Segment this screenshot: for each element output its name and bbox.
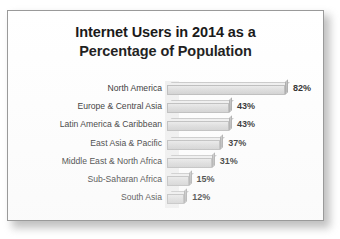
bar-front-face [167, 85, 285, 95]
bar-row: East Asia & Pacific 37% [14, 136, 319, 154]
value-label: 43% [237, 117, 255, 131]
bar-front-face [167, 140, 220, 150]
bar-row: North America 82% [14, 81, 319, 99]
bar-right-cap [285, 79, 288, 95]
bar-right-cap [184, 188, 187, 204]
bar-right-cap [229, 97, 232, 113]
bar-south-asia [167, 191, 184, 205]
bar-north-america [167, 82, 285, 96]
bar-row: Europe & Central Asia 43% [14, 99, 319, 117]
bar-front-face [167, 194, 184, 204]
value-label: 82% [293, 81, 311, 95]
bar-front-face [167, 158, 212, 168]
bar-row: South Asia 12% [14, 190, 319, 208]
bar-latin-america-caribbean [167, 118, 229, 132]
bar-right-cap [212, 152, 215, 168]
bar-row: Middle East & North Africa 31% [14, 154, 319, 172]
bar-row: Latin America & Caribbean 43% [14, 117, 319, 135]
category-label: Europe & Central Asia [14, 99, 162, 113]
bar-sub-saharan-africa [167, 173, 189, 187]
bar-row: Sub-Saharan Africa 15% [14, 172, 319, 190]
chart-title-line-1: Internet Users in 2014 as a [8, 23, 323, 42]
category-label: South Asia [14, 190, 162, 204]
category-label: North America [14, 81, 162, 95]
bar-east-asia-pacific [167, 137, 220, 151]
category-label: East Asia & Pacific [14, 136, 162, 150]
bar-front-face [167, 176, 189, 186]
value-label: 37% [228, 136, 246, 150]
category-label: Sub-Saharan Africa [14, 172, 162, 186]
chart-title-line-2: Percentage of Population [8, 42, 323, 61]
bar-europe-central-asia [167, 100, 229, 114]
chart-card: Internet Users in 2014 as a Percentage o… [7, 10, 324, 221]
category-label: Latin America & Caribbean [14, 117, 162, 131]
bar-front-face [167, 121, 229, 131]
bar-right-cap [189, 170, 192, 186]
category-label: Middle East & North Africa [14, 154, 162, 168]
bar-right-cap [229, 116, 232, 132]
chart-figure: Internet Users in 2014 as a Percentage o… [0, 0, 340, 239]
plot-area: North America 82% Europe & Central Asia … [14, 79, 319, 213]
value-label: 12% [192, 190, 210, 204]
value-label: 43% [237, 99, 255, 113]
value-label: 15% [197, 172, 215, 186]
bar-middle-east-north-africa [167, 155, 212, 169]
bar-front-face [167, 103, 229, 113]
value-label: 31% [220, 154, 238, 168]
chart-title: Internet Users in 2014 as a Percentage o… [8, 23, 323, 61]
bar-right-cap [220, 134, 223, 150]
